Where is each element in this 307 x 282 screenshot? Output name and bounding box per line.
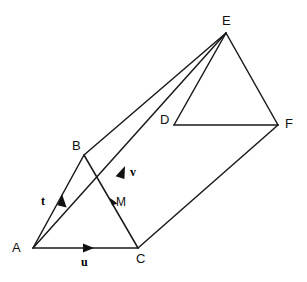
vector-label-v: v [130, 166, 136, 178]
vertex-label-E: E [222, 14, 231, 27]
vector-label-t: t [41, 195, 45, 207]
edge-AE [33, 33, 226, 248]
vector-label-u: u [81, 256, 88, 268]
edge-EF [226, 33, 278, 125]
edge-DE [174, 33, 226, 125]
geometry-diagram: A B C D E F M t u v [0, 0, 307, 282]
point-label-M: M [116, 196, 126, 208]
vector-v-arrowhead [116, 166, 125, 179]
edge-CF [138, 125, 278, 248]
vertex-label-F: F [285, 117, 293, 130]
diagram-canvas [0, 0, 307, 282]
vertex-label-A: A [12, 241, 21, 254]
vertex-label-D: D [160, 113, 169, 126]
vertex-label-C: C [136, 252, 145, 265]
edge-BE [84, 33, 226, 155]
vector-u-arrowhead [83, 243, 94, 252]
vertex-label-B: B [72, 139, 81, 152]
